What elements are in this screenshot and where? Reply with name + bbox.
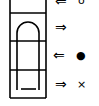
symbol-cross: × [77, 79, 86, 90]
arrow-left-3: ⇐ [53, 48, 65, 62]
symbol-filled-dot: ● [76, 50, 86, 61]
arrow-right-4: ⇒ [55, 77, 67, 91]
arrow-left-1: ⇐ [55, 0, 67, 8]
outer-box [10, 0, 46, 98]
arrow-right-2: ⇒ [55, 20, 67, 34]
symbol-open-circle: o [78, 0, 85, 6]
inner-tube [17, 22, 39, 90]
